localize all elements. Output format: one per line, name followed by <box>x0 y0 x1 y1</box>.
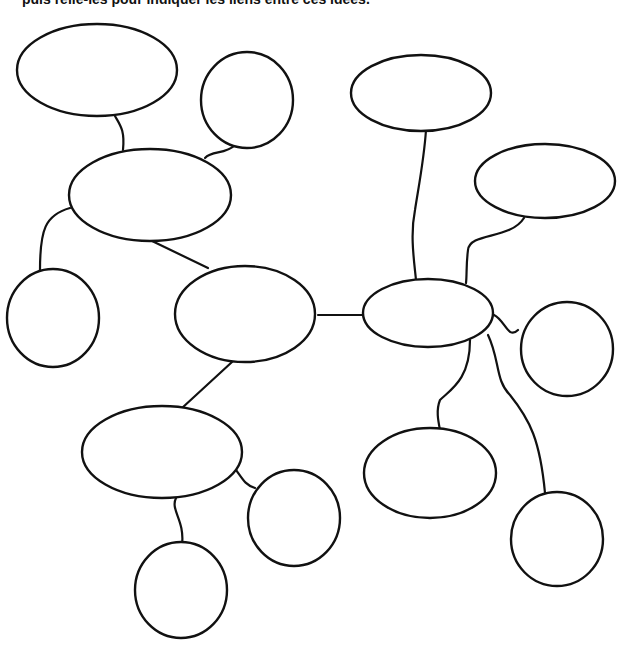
link <box>438 340 470 430</box>
link <box>115 116 123 150</box>
node-circle-4[interactable] <box>7 269 99 367</box>
node-circle-14[interactable] <box>135 542 227 638</box>
node-ellipse-9[interactable] <box>363 279 493 347</box>
node-circle-13[interactable] <box>248 470 340 566</box>
link <box>205 145 235 158</box>
node-ellipse-3[interactable] <box>69 149 231 241</box>
link <box>413 130 426 280</box>
mind-map-diagram <box>0 0 620 647</box>
node-ellipse-5[interactable] <box>175 266 315 362</box>
node-ellipse-10[interactable] <box>364 428 496 518</box>
link <box>40 208 70 270</box>
link <box>182 362 232 408</box>
node-circle-8[interactable] <box>521 302 613 396</box>
node-circle-11[interactable] <box>511 492 603 586</box>
link <box>494 315 518 333</box>
link <box>150 240 208 268</box>
node-ellipse-1[interactable] <box>17 24 177 116</box>
link <box>236 470 255 488</box>
node-ellipse-6[interactable] <box>351 55 491 131</box>
node-circle-2[interactable] <box>201 52 293 148</box>
node-ellipse-12[interactable] <box>82 406 242 498</box>
link <box>466 218 524 283</box>
link <box>175 498 183 545</box>
node-ellipse-7[interactable] <box>475 144 615 218</box>
